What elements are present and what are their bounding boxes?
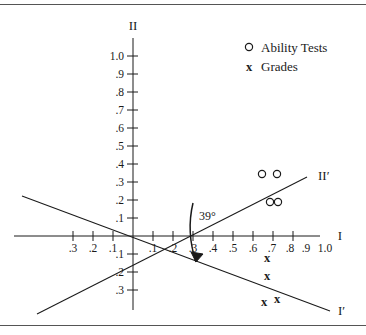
legend-x-marker-icon: x bbox=[246, 60, 253, 74]
x-axis-name-I: I bbox=[338, 228, 342, 243]
x-tick-label: 1.0 bbox=[318, 242, 333, 254]
y-tick-label-negative: .2 bbox=[115, 266, 124, 278]
plot-canvas: 1.0 .9 .8 .7 .6 .5 .4 .3 .2 .1 .1 .2 .3 bbox=[0, 0, 366, 335]
x-tick-label-negative: .3 bbox=[69, 242, 78, 254]
y-tick-label-negative: .3 bbox=[115, 284, 124, 296]
rotation-angle-label: 39° bbox=[199, 209, 216, 223]
circle-marker bbox=[273, 170, 280, 177]
y-axis-tick-labels-negative: .1 .2 .3 bbox=[115, 248, 124, 296]
rotation-arrow-head bbox=[191, 252, 203, 262]
series-grades-markers: x x x x bbox=[261, 251, 281, 309]
y-tick-label: .1 bbox=[115, 212, 124, 224]
circle-marker bbox=[258, 170, 265, 177]
y-tick-label: 1.0 bbox=[110, 50, 125, 62]
y-axis-name-II: II bbox=[129, 18, 138, 33]
x-tick-label: .4 bbox=[209, 242, 218, 254]
y-tick-label: .6 bbox=[115, 122, 124, 134]
x-tick-label: .5 bbox=[229, 242, 238, 254]
y-tick-label: .5 bbox=[115, 140, 124, 152]
x-tick-label: .1 bbox=[149, 242, 158, 254]
x-marker: x bbox=[274, 292, 281, 306]
y-tick-label: .8 bbox=[115, 86, 124, 98]
x-marker: x bbox=[264, 251, 271, 265]
rotated-axis-name-I-prime: I′ bbox=[338, 303, 345, 318]
rotated-axis-name-II-prime: II′ bbox=[318, 168, 330, 183]
x-axis-tick-labels-negative: .3 .2 .1 bbox=[69, 242, 118, 254]
legend-circle-marker-icon bbox=[245, 43, 252, 50]
x-tick-label: .6 bbox=[249, 242, 258, 254]
circle-marker bbox=[266, 198, 273, 205]
x-tick-label: .2 bbox=[169, 242, 178, 254]
factor-rotation-figure: 1.0 .9 .8 .7 .6 .5 .4 .3 .2 .1 .1 .2 .3 bbox=[0, 0, 366, 335]
x-marker: x bbox=[264, 269, 271, 283]
x-tick-label-negative: .2 bbox=[89, 242, 98, 254]
x-tick-label: .9 bbox=[302, 242, 311, 254]
y-tick-label: .3 bbox=[115, 176, 124, 188]
x-axis-tick-labels-positive: .1 .2 .3 .4 .5 .6 .7 .8 .9 1.0 bbox=[149, 242, 333, 254]
y-tick-label: .7 bbox=[115, 104, 124, 116]
legend: Ability Tests x Grades bbox=[245, 40, 327, 74]
x-tick-label: .8 bbox=[286, 242, 295, 254]
y-tick-label: .2 bbox=[115, 194, 124, 206]
y-tick-label: .4 bbox=[115, 158, 124, 170]
y-axis-tick-labels-positive: 1.0 .9 .8 .7 .6 .5 .4 .3 .2 .1 bbox=[110, 50, 125, 224]
x-tick-label-negative: .1 bbox=[109, 242, 118, 254]
legend-label-grades: Grades bbox=[261, 59, 298, 74]
circle-marker bbox=[274, 198, 281, 205]
x-marker: x bbox=[261, 295, 268, 309]
principal-axes bbox=[14, 38, 320, 310]
y-tick-label: .9 bbox=[115, 68, 124, 80]
legend-label-ability-tests: Ability Tests bbox=[261, 40, 327, 55]
